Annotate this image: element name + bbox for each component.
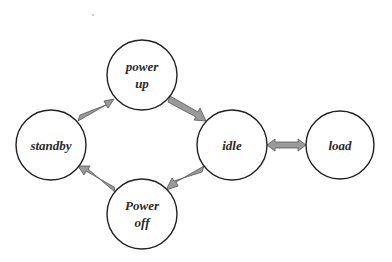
node-power-off-label-line2: off — [135, 215, 152, 230]
arrow-idle-to-power-off — [166, 166, 204, 190]
node-standby: standby — [16, 110, 86, 180]
node-power-up-label-line2: up — [135, 76, 149, 91]
node-load: load — [306, 111, 374, 179]
node-power-off: Power off — [107, 179, 177, 249]
arrow-standby-to-power-up — [78, 99, 114, 121]
node-idle-label: idle — [222, 138, 242, 153]
node-power-up-label-line1: power — [125, 59, 159, 74]
arrow-idle-load-bidirectional — [267, 139, 306, 151]
node-power-up: power up — [107, 40, 177, 110]
state-diagram: power up standby idle load Power off — [0, 0, 392, 262]
arrow-power-up-to-idle — [168, 96, 206, 121]
arrow-power-off-to-standby — [78, 166, 116, 193]
scan-speck — [92, 14, 94, 16]
node-load-label: load — [328, 138, 352, 153]
node-standby-label: standby — [29, 138, 71, 153]
node-power-off-label-line1: Power — [125, 198, 160, 213]
node-idle: idle — [197, 110, 267, 180]
